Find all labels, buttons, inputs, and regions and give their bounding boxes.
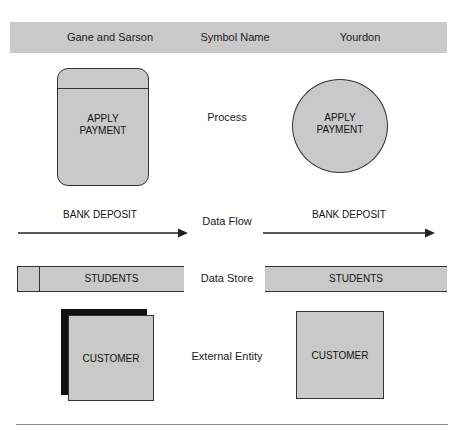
symbol-name-external-entity: External Entity bbox=[175, 350, 279, 362]
gane-sarson-data-flow-label: BANK DEPOSIT bbox=[20, 209, 180, 220]
gane-sarson-data-store-symbol: STUDENTS bbox=[17, 266, 184, 292]
process-top-band-divider bbox=[58, 88, 148, 89]
header-column-yourdon: Yourdon bbox=[295, 22, 425, 53]
symbol-name-process: Process bbox=[175, 111, 279, 123]
gane-sarson-process-label-line2: PAYMENT bbox=[58, 125, 148, 137]
header-column-symbol-name: Symbol Name bbox=[185, 22, 285, 53]
header-band: Gane and Sarson Symbol Name Yourdon bbox=[10, 22, 447, 53]
gane-sarson-data-store-label: STUDENTS bbox=[39, 267, 184, 291]
external-entity-face: CUSTOMER bbox=[68, 315, 154, 401]
gane-sarson-process-symbol: APPLY PAYMENT bbox=[57, 68, 149, 186]
gane-sarson-process-label-line1: APPLY bbox=[58, 113, 148, 125]
yourdon-data-store-label: STUDENTS bbox=[265, 267, 447, 291]
yourdon-process-label-line1: APPLY bbox=[293, 112, 387, 124]
yourdon-external-entity-label: CUSTOMER bbox=[297, 312, 383, 398]
symbol-name-data-store: Data Store bbox=[175, 272, 279, 284]
yourdon-external-entity-symbol: CUSTOMER bbox=[296, 311, 384, 399]
header-column-gane-and-sarson: Gane and Sarson bbox=[35, 22, 185, 53]
gane-sarson-external-entity-symbol: CUSTOMER bbox=[61, 309, 155, 401]
yourdon-process-label: APPLY PAYMENT bbox=[293, 112, 387, 136]
gane-sarson-external-entity-label: CUSTOMER bbox=[69, 316, 153, 400]
gane-sarson-data-flow-arrow-icon bbox=[18, 226, 188, 240]
yourdon-data-store-symbol: STUDENTS bbox=[265, 266, 447, 292]
yourdon-data-flow-label: BANK DEPOSIT bbox=[268, 209, 430, 220]
yourdon-process-label-line2: PAYMENT bbox=[293, 124, 387, 136]
footer-divider bbox=[16, 424, 448, 425]
yourdon-process-symbol: APPLY PAYMENT bbox=[292, 79, 388, 173]
dfd-notation-comparison-figure: Gane and Sarson Symbol Name Yourdon APPL… bbox=[0, 0, 459, 436]
yourdon-data-flow-arrow-icon bbox=[263, 226, 435, 240]
gane-sarson-process-label: APPLY PAYMENT bbox=[58, 113, 148, 137]
